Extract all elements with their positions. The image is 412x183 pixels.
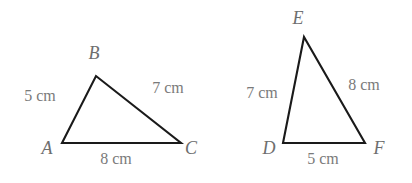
side-label-de: 7 cm: [246, 85, 278, 101]
vertex-label-c: C: [185, 139, 197, 157]
vertex-label-a: A: [42, 139, 53, 157]
geometry-diagram: A B C 5 cm 7 cm 8 cm D E F 7 cm 8 cm 5 c…: [0, 0, 412, 183]
side-label-df: 5 cm: [307, 151, 339, 167]
vertex-label-d: D: [263, 139, 276, 157]
vertex-label-e: E: [293, 9, 304, 27]
side-label-ac: 8 cm: [100, 151, 132, 167]
vertex-label-b: B: [89, 44, 100, 62]
side-label-ef: 8 cm: [348, 77, 380, 93]
vertex-label-f: F: [374, 139, 385, 157]
side-label-ab: 5 cm: [24, 88, 56, 104]
side-label-bc: 7 cm: [152, 80, 184, 96]
